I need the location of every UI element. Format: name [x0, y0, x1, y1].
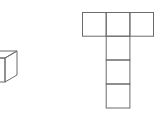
net-cell-column-3: [106, 84, 130, 108]
net-cell-column-2: [106, 60, 130, 84]
net-cell-column-1: [106, 36, 130, 60]
cube-figure: [0, 51, 17, 82]
net-cell-top-left: [83, 13, 107, 37]
net-cell-top-center: [106, 13, 130, 37]
diagram-canvas: [0, 0, 160, 116]
cube-side-face: [5, 51, 17, 82]
cube-net: [83, 13, 154, 109]
cube-front-face: [0, 58, 5, 82]
net-cell-top-right: [130, 13, 154, 37]
